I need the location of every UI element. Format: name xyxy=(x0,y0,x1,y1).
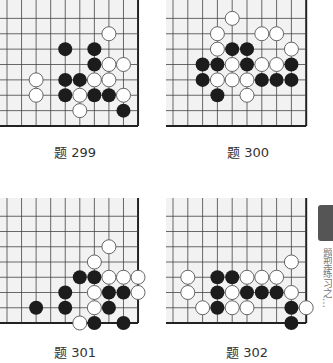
black-stone xyxy=(240,58,254,72)
white-stone xyxy=(240,88,254,102)
white-stone xyxy=(225,58,239,72)
black-stone xyxy=(210,286,224,300)
black-stone xyxy=(87,270,101,284)
white-stone xyxy=(255,27,269,41)
black-stone xyxy=(116,286,130,300)
black-stone xyxy=(102,88,116,102)
white-stone xyxy=(299,301,313,315)
black-stone xyxy=(255,73,269,87)
black-stone xyxy=(102,301,116,315)
black-stone xyxy=(225,42,239,56)
black-stone xyxy=(270,286,284,300)
black-stone xyxy=(284,73,298,87)
black-stone xyxy=(210,58,224,72)
white-stone xyxy=(225,286,239,300)
white-stone xyxy=(87,73,101,87)
black-stone xyxy=(225,270,239,284)
white-stone xyxy=(116,270,130,284)
white-stone xyxy=(131,286,145,300)
white-stone xyxy=(225,11,239,25)
black-stone xyxy=(29,301,43,315)
white-stone xyxy=(240,73,254,87)
white-stone xyxy=(240,301,254,315)
black-stone xyxy=(58,73,72,87)
black-stone xyxy=(255,286,269,300)
white-stone xyxy=(102,270,116,284)
black-stone xyxy=(73,270,87,284)
black-stone xyxy=(116,104,130,118)
black-stone xyxy=(58,301,72,315)
white-stone xyxy=(181,286,195,300)
black-stone xyxy=(102,286,116,300)
white-stone xyxy=(284,286,298,300)
white-stone xyxy=(270,27,284,41)
white-stone xyxy=(240,270,254,284)
white-stone xyxy=(225,73,239,87)
go-board-300 xyxy=(166,0,309,129)
black-stone xyxy=(73,73,87,87)
black-stone xyxy=(58,88,72,102)
chapter-tab xyxy=(318,205,333,241)
black-stone xyxy=(284,301,298,315)
black-stone xyxy=(284,58,298,72)
white-stone xyxy=(29,88,43,102)
white-stone xyxy=(196,301,210,315)
white-stone xyxy=(102,240,116,254)
black-stone xyxy=(87,316,101,330)
chapter-side-text: 题型练习之… xyxy=(320,248,332,340)
white-stone xyxy=(284,255,298,269)
white-stone xyxy=(73,104,87,118)
white-stone xyxy=(116,88,130,102)
white-stone xyxy=(87,301,101,315)
problem-label-299: 题 299 xyxy=(35,145,115,161)
black-stone xyxy=(240,286,254,300)
black-stone xyxy=(210,270,224,284)
go-board-301 xyxy=(0,198,141,326)
problem-label-300: 题 300 xyxy=(208,145,288,161)
white-stone xyxy=(73,88,87,102)
black-stone xyxy=(270,73,284,87)
white-stone xyxy=(255,58,269,72)
white-stone xyxy=(131,270,145,284)
white-stone xyxy=(102,27,116,41)
black-stone xyxy=(210,301,224,315)
black-stone xyxy=(196,73,210,87)
black-stone xyxy=(196,58,210,72)
white-stone xyxy=(284,42,298,56)
white-stone xyxy=(210,42,224,56)
problem-label-301: 题 301 xyxy=(35,345,115,361)
white-stone xyxy=(225,301,239,315)
black-stone xyxy=(58,286,72,300)
black-stone xyxy=(284,316,298,330)
white-stone xyxy=(270,58,284,72)
go-board-302 xyxy=(166,198,309,326)
white-stone xyxy=(29,73,43,87)
white-stone xyxy=(87,255,101,269)
white-stone xyxy=(255,270,269,284)
white-stone xyxy=(210,27,224,41)
white-stone xyxy=(102,73,116,87)
black-stone xyxy=(87,88,101,102)
white-stone xyxy=(116,58,130,72)
white-stone xyxy=(87,286,101,300)
go-board-299 xyxy=(0,0,141,129)
white-stone xyxy=(181,270,195,284)
white-stone xyxy=(270,270,284,284)
black-stone xyxy=(210,88,224,102)
black-stone xyxy=(87,58,101,72)
white-stone xyxy=(73,316,87,330)
white-stone xyxy=(210,73,224,87)
black-stone xyxy=(116,316,130,330)
black-stone xyxy=(87,42,101,56)
problem-label-302: 题 302 xyxy=(207,345,287,361)
black-stone xyxy=(240,42,254,56)
white-stone xyxy=(102,58,116,72)
black-stone xyxy=(58,42,72,56)
